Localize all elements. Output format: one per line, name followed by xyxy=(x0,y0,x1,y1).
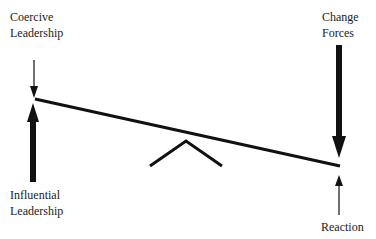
reaction-label: Reaction xyxy=(321,219,364,235)
reaction-line-1: Reaction xyxy=(321,219,364,235)
reaction-arrow-icon xyxy=(335,175,343,215)
influential-arrow-icon xyxy=(27,103,39,182)
change-line-2: Forces xyxy=(322,25,359,41)
coercive-arrow-icon xyxy=(30,60,38,98)
change-forces-arrow-icon xyxy=(332,45,346,158)
fulcrum xyxy=(150,141,222,166)
coercive-line-1: Coercive xyxy=(10,9,63,25)
change-line-1: Change xyxy=(322,9,359,25)
influential-line-1: Influential xyxy=(10,187,63,203)
lever-beam xyxy=(35,99,340,166)
coercive-leadership-label: Coercive Leadership xyxy=(10,9,63,41)
coercive-line-2: Leadership xyxy=(10,25,63,41)
influential-line-2: Leadership xyxy=(10,203,63,219)
influential-leadership-label: Influential Leadership xyxy=(10,187,63,219)
change-forces-label: Change Forces xyxy=(322,9,359,41)
